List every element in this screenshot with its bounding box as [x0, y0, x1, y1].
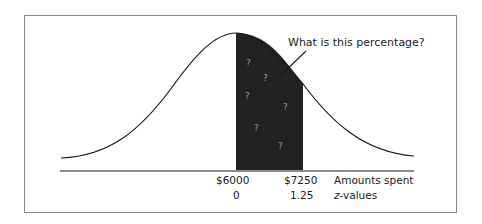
- axis-label-amounts: Amounts spent: [334, 174, 413, 186]
- shaded-area: [236, 33, 303, 170]
- annotation-text: What is this percentage?: [288, 36, 425, 49]
- z-label-rest: -values: [340, 189, 378, 201]
- normal-curve-diagram: ? ? ? ? ? ?: [0, 0, 482, 224]
- question-mark: ?: [278, 141, 283, 151]
- tick-z-1-25: 1.25: [290, 189, 313, 201]
- tick-amount-6000: $6000: [216, 174, 249, 186]
- question-mark: ?: [283, 102, 288, 112]
- axis-label-z-values: z-values: [334, 189, 377, 201]
- question-mark: ?: [263, 73, 268, 83]
- question-mark: ?: [245, 91, 250, 101]
- question-mark: ?: [246, 58, 251, 68]
- tick-z-0: 0: [233, 189, 240, 201]
- tick-amount-7250: $7250: [284, 174, 317, 186]
- question-mark: ?: [254, 123, 259, 133]
